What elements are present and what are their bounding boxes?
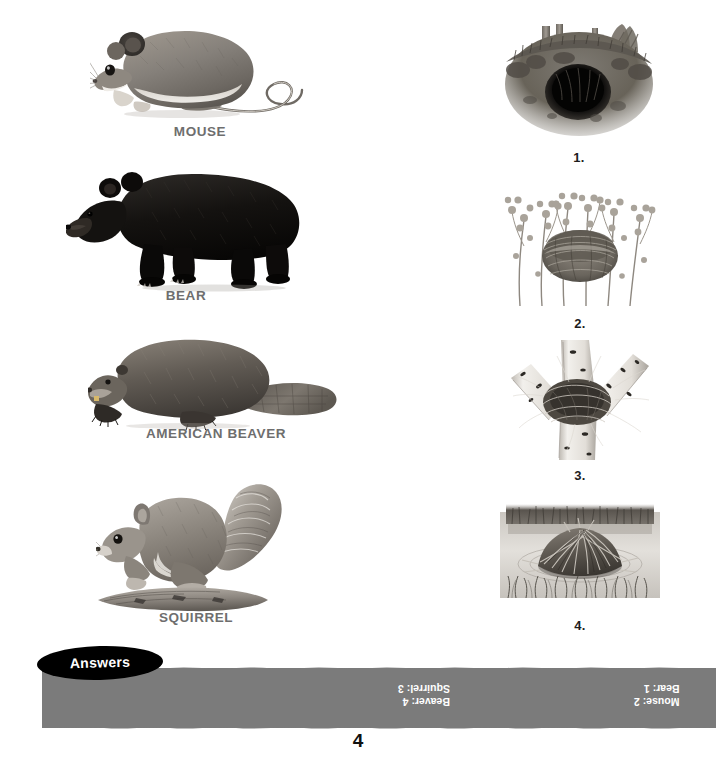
habitat-number-3: 3.: [505, 468, 655, 483]
answer-column-beaver-squirrel: Beaver: 4 Squirrel: 3: [398, 682, 450, 708]
worksheet-page: MOUSE: [0, 0, 716, 757]
animal-entry-mouse: MOUSE: [90, 18, 310, 138]
answer-column-mouse-bear: Mouse: 2 Bear: 1: [634, 682, 680, 708]
squirrel-illustration: [96, 482, 296, 612]
animal-label-squirrel: SQUIRREL: [96, 610, 296, 625]
answer-line-mouse: Mouse: 2: [634, 695, 680, 708]
page-number: 4: [0, 730, 716, 752]
habitat-entry-2: 2.: [502, 186, 658, 336]
bear-den-burrow-illustration: [500, 22, 658, 140]
animal-entry-american-beaver: AMERICAN BEAVER: [88, 336, 344, 442]
american-beaver-illustration: [88, 336, 344, 430]
answer-line-bear: Bear: 1: [634, 682, 680, 695]
answers-strip: Beaver: 4 Squirrel: 3 Mouse: 2 Bear: 1: [42, 668, 716, 728]
habitat-number-4: 4.: [500, 618, 660, 633]
animal-label-american-beaver: AMERICAN BEAVER: [88, 426, 344, 441]
habitat-entry-4: 4.: [500, 492, 660, 638]
animal-entry-squirrel: SQUIRREL: [96, 482, 296, 626]
black-bear-illustration: [66, 168, 306, 292]
answer-line-squirrel: Squirrel: 3: [398, 682, 450, 695]
squirrel-drey-in-birch-illustration: [505, 338, 655, 462]
habitat-number-2: 2.: [502, 316, 658, 331]
habitat-entry-3: 3.: [505, 338, 655, 486]
animal-label-bear: BEAR: [66, 288, 306, 303]
answer-line-beaver: Beaver: 4: [398, 695, 450, 708]
animal-label-mouse: MOUSE: [90, 124, 310, 139]
habitat-entry-1: 1.: [500, 22, 658, 170]
answers-tab-label: Answers: [70, 654, 131, 672]
habitat-number-1: 1.: [500, 150, 658, 165]
beaver-lodge-in-pond-illustration: [500, 492, 660, 612]
mouse-illustration: [90, 18, 310, 124]
mouse-nest-in-grass-illustration: [502, 186, 658, 308]
animal-entry-bear: BEAR: [66, 168, 306, 304]
